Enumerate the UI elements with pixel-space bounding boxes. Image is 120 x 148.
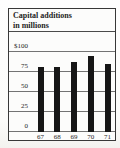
bar-67 xyxy=(38,67,44,132)
bar-69 xyxy=(71,62,77,132)
chart-frame: Capital additions in millions $100755025… xyxy=(8,8,116,141)
x-axis-tick-label-68: 68 xyxy=(50,133,64,141)
gridline-100 xyxy=(9,51,115,52)
scanned-chart-page: Capital additions in millions $100755025… xyxy=(0,0,120,148)
y-axis-tick-label-25: 25 xyxy=(10,102,28,110)
y-axis-tick-label-50: 50 xyxy=(10,82,28,90)
y-axis-tick-label-75: 75 xyxy=(10,62,28,70)
x-axis-tick-label-67: 67 xyxy=(34,133,48,141)
gridline-0 xyxy=(9,131,115,132)
y-axis-tick-label-0: 0 xyxy=(10,122,28,130)
y-axis-tick-label-100: $100 xyxy=(10,42,28,50)
bar-71 xyxy=(105,64,111,132)
gridline-75 xyxy=(9,71,115,72)
x-axis-tick-label-69: 69 xyxy=(67,133,81,141)
bar-70 xyxy=(88,56,94,132)
gridline-50 xyxy=(9,91,115,92)
x-axis-tick-label-70: 70 xyxy=(84,133,98,141)
plot-area: $10075502506768697071 xyxy=(9,9,115,140)
bar-68 xyxy=(54,67,60,132)
x-axis-tick-label-71: 71 xyxy=(101,133,115,141)
gridline-25 xyxy=(9,111,115,112)
